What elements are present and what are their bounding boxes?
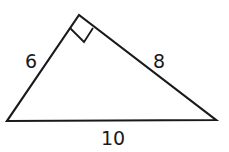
triangle-diagram: 6 8 10 — [0, 0, 229, 152]
side-label-base: 10 — [101, 127, 125, 149]
triangle-shape — [7, 15, 216, 121]
side-label-right: 8 — [153, 50, 165, 72]
side-label-left: 6 — [25, 50, 37, 72]
right-angle-marker — [70, 28, 93, 42]
